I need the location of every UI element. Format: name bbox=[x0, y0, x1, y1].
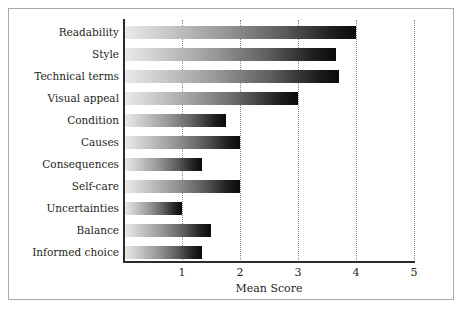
x-tick-label: 2 bbox=[230, 266, 250, 279]
category-label: Style bbox=[1, 48, 119, 61]
category-axis-labels: ReadabilityStyleTechnical termsVisual ap… bbox=[0, 20, 119, 262]
gridline-5 bbox=[414, 20, 415, 262]
gridline-4 bbox=[356, 20, 357, 262]
bar bbox=[124, 246, 202, 259]
bar bbox=[124, 70, 339, 83]
bar bbox=[124, 180, 240, 193]
bar bbox=[124, 136, 240, 149]
x-tick-label: 1 bbox=[172, 266, 192, 279]
category-label: Technical terms bbox=[1, 70, 119, 83]
x-tick-label: 3 bbox=[288, 266, 308, 279]
plot-area bbox=[124, 20, 414, 262]
bar bbox=[124, 202, 182, 215]
category-label: Consequences bbox=[1, 158, 119, 171]
bar bbox=[124, 114, 226, 127]
category-label: Causes bbox=[1, 136, 119, 149]
x-tick-label: 4 bbox=[346, 266, 366, 279]
bar bbox=[124, 92, 298, 105]
x-axis-line bbox=[123, 261, 415, 263]
category-label: Condition bbox=[1, 114, 119, 127]
bar bbox=[124, 224, 211, 237]
category-label: Visual appeal bbox=[1, 92, 119, 105]
y-axis-line bbox=[123, 19, 125, 263]
bar bbox=[124, 26, 356, 39]
category-label: Readability bbox=[1, 26, 119, 39]
bar bbox=[124, 48, 336, 61]
category-label: Self-care bbox=[1, 180, 119, 193]
category-label: Informed choice bbox=[1, 246, 119, 259]
category-label: Uncertainties bbox=[1, 202, 119, 215]
x-tick-label: 5 bbox=[404, 266, 424, 279]
x-axis-title: Mean Score bbox=[124, 282, 414, 295]
category-label: Balance bbox=[1, 224, 119, 237]
bar bbox=[124, 158, 202, 171]
chart-figure: ReadabilityStyleTechnical termsVisual ap… bbox=[0, 0, 465, 314]
